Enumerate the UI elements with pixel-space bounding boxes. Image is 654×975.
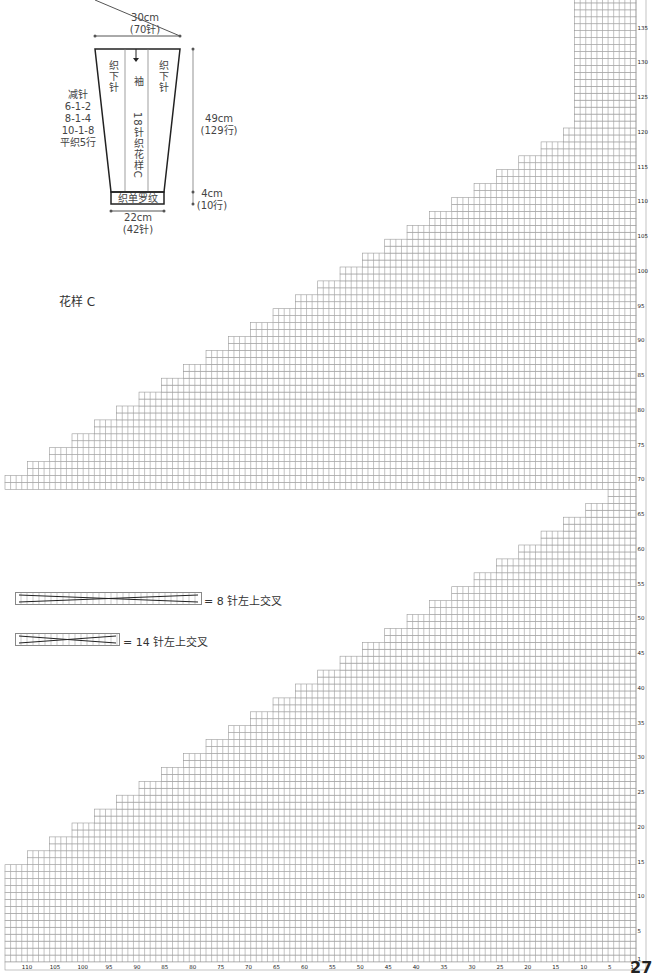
row-label: 60 <box>638 546 645 552</box>
column-label: 105 <box>50 964 61 970</box>
row-label: 20 <box>638 824 645 830</box>
row-label: 125 <box>638 94 649 100</box>
row-label: 45 <box>638 650 645 656</box>
column-label: 50 <box>357 964 364 970</box>
row-label: 135 <box>638 25 649 31</box>
column-label: 40 <box>413 964 420 970</box>
column-label: 65 <box>273 964 280 970</box>
row-label: 80 <box>638 407 645 413</box>
row-label: 100 <box>638 268 649 274</box>
row-label: 85 <box>638 372 645 378</box>
legend-label-8: = 8 针左上交叉 <box>204 592 282 608</box>
row-label: 40 <box>638 685 645 691</box>
column-label: 80 <box>189 964 196 970</box>
column-label: 15 <box>552 964 559 970</box>
column-label: 95 <box>106 964 113 970</box>
row-label: 5 <box>638 928 642 934</box>
row-label: 115 <box>638 164 649 170</box>
column-label: 75 <box>217 964 224 970</box>
column-label: 100 <box>78 964 89 970</box>
legend: = 8 针左上交叉 = 14 针左上交叉 <box>15 592 315 652</box>
row-label: 35 <box>638 720 645 726</box>
row-label: 70 <box>638 476 645 482</box>
row-label: 95 <box>638 303 645 309</box>
row-label: 75 <box>638 442 645 448</box>
page-number: 27 <box>630 958 652 975</box>
column-label: 60 <box>301 964 308 970</box>
cable-8-symbol-icon <box>15 592 205 606</box>
column-label: 85 <box>161 964 168 970</box>
column-label: 25 <box>496 964 503 970</box>
column-label: 55 <box>329 964 336 970</box>
row-label: 65 <box>638 511 645 517</box>
column-label: 5 <box>608 964 612 970</box>
row-label: 130 <box>638 59 649 65</box>
row-label: 50 <box>638 615 645 621</box>
column-label: 20 <box>524 964 531 970</box>
row-label: 10 <box>638 893 645 899</box>
row-label: 30 <box>638 754 645 760</box>
column-label: 30 <box>468 964 475 970</box>
row-label: 25 <box>638 789 645 795</box>
column-label: 70 <box>245 964 252 970</box>
row-label: 90 <box>638 337 645 343</box>
column-label: 90 <box>133 964 140 970</box>
cable-14-symbol-icon <box>15 633 125 647</box>
knitting-chart: 1510152025303540455055606570758085909510… <box>0 0 654 975</box>
row-label: 120 <box>638 129 649 135</box>
column-label: 35 <box>441 964 448 970</box>
column-label: 45 <box>385 964 392 970</box>
row-label: 110 <box>638 198 649 204</box>
column-label: 10 <box>580 964 587 970</box>
legend-label-14: = 14 针左上交叉 <box>123 633 208 649</box>
row-label: 15 <box>638 859 645 865</box>
column-label: 110 <box>22 964 33 970</box>
row-label: 55 <box>638 581 645 587</box>
row-label: 105 <box>638 233 649 239</box>
